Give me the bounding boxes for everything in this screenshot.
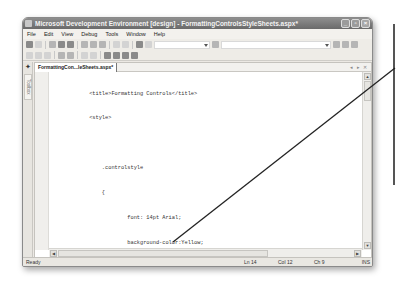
- menu-edit[interactable]: Edit: [44, 29, 53, 39]
- code-line: background-color:Yellow;: [51, 239, 361, 247]
- maximize-button[interactable]: ▫: [351, 19, 360, 28]
- toolbar-separator: [77, 51, 78, 59]
- start-debug-icon[interactable]: [136, 41, 143, 48]
- next-bookmark-icon[interactable]: [113, 52, 120, 59]
- scroll-left-arrow-icon[interactable]: ◀: [50, 250, 57, 257]
- redo-icon[interactable]: [122, 41, 129, 48]
- find-icon[interactable]: [212, 41, 219, 48]
- toolbar-separator: [77, 41, 78, 49]
- paste-icon[interactable]: [99, 41, 106, 48]
- status-char: Ch 9: [314, 258, 325, 267]
- indent-icon[interactable]: [67, 52, 74, 59]
- toolbox-strip: ✦ Toolbox: [23, 62, 33, 258]
- ide-window: Microsoft Development Environment [desig…: [22, 17, 373, 267]
- cut-icon[interactable]: [81, 41, 88, 48]
- close-button[interactable]: ×: [361, 19, 370, 28]
- format-icon[interactable]: [44, 52, 51, 59]
- toolbar-separator: [100, 51, 101, 59]
- new-project-icon[interactable]: [26, 41, 33, 48]
- menu-window[interactable]: Window: [126, 29, 146, 39]
- solution-config-dropdown[interactable]: [154, 41, 210, 49]
- open-file-icon[interactable]: [49, 41, 56, 48]
- copy-icon[interactable]: [90, 41, 97, 48]
- document-tab-controls[interactable]: ◂ ▸ ✕: [350, 63, 368, 72]
- save-all-icon[interactable]: [67, 41, 74, 48]
- status-line: Ln 14: [244, 258, 257, 267]
- toolbox-tab[interactable]: Toolbox: [24, 74, 32, 100]
- callout-bracket: [393, 24, 395, 185]
- uncomment-icon[interactable]: [90, 52, 97, 59]
- pin-icon[interactable]: ✦: [24, 63, 32, 71]
- status-bar: Ready Ln 14 Col 12 Ch 9 INS: [23, 257, 372, 266]
- comment-icon[interactable]: [81, 52, 88, 59]
- vertical-scroll-thumb[interactable]: [364, 81, 371, 101]
- horizontal-scrollbar[interactable]: ◀ ▶: [49, 248, 362, 257]
- code-line: {: [51, 189, 361, 197]
- code-line: font: 14pt Arial;: [51, 214, 361, 222]
- menu-help[interactable]: Help: [154, 29, 165, 39]
- format-icon[interactable]: [35, 52, 42, 59]
- status-column: Col 12: [278, 258, 292, 267]
- window-title: Microsoft Development Environment [desig…: [35, 20, 298, 27]
- solution-explorer-icon[interactable]: [333, 41, 340, 48]
- menu-bar: File Edit View Debug Tools Window Help: [23, 29, 372, 39]
- menu-file[interactable]: File: [27, 29, 36, 39]
- formatting-toolbar: [23, 50, 372, 61]
- standard-toolbar: [23, 39, 372, 50]
- code-line: .controlstyle: [51, 164, 361, 172]
- toolbar-separator: [45, 41, 46, 49]
- prev-bookmark-icon[interactable]: [122, 52, 129, 59]
- menu-view[interactable]: View: [61, 29, 73, 39]
- undo-icon[interactable]: [113, 41, 120, 48]
- scroll-down-arrow-icon[interactable]: ▼: [364, 242, 371, 249]
- status-insert-mode: INS: [362, 258, 370, 267]
- menu-tools[interactable]: Tools: [105, 29, 118, 39]
- status-text: Ready: [26, 258, 40, 267]
- outdent-icon[interactable]: [58, 52, 65, 59]
- toolbar-separator: [132, 41, 133, 49]
- minimize-button[interactable]: _: [341, 19, 350, 28]
- save-icon[interactable]: [58, 41, 65, 48]
- bookmark-icon[interactable]: [104, 52, 111, 59]
- toolbox-icon[interactable]: [351, 41, 358, 48]
- add-item-icon[interactable]: [35, 41, 42, 48]
- vertical-scrollbar[interactable]: ▲ ▼: [362, 72, 371, 250]
- editor-document: FormattingCon...leSheets.aspx* ◂ ▸ ✕ <ti…: [34, 62, 372, 258]
- code-line: <style>: [51, 114, 361, 122]
- document-tabs: FormattingCon...leSheets.aspx* ◂ ▸ ✕: [35, 63, 371, 72]
- menu-debug[interactable]: Debug: [81, 29, 97, 39]
- format-icon[interactable]: [26, 52, 33, 59]
- properties-icon[interactable]: [342, 41, 349, 48]
- scroll-right-arrow-icon[interactable]: ▶: [354, 250, 361, 257]
- document-tab[interactable]: FormattingCon...leSheets.aspx*: [35, 63, 117, 72]
- title-bar[interactable]: Microsoft Development Environment [desig…: [23, 18, 372, 29]
- scroll-up-arrow-icon[interactable]: ▲: [364, 73, 371, 80]
- code-line: <title>Formatting Controls</title>: [51, 90, 361, 98]
- editor-gutter: [35, 72, 49, 250]
- app-icon: [25, 20, 32, 27]
- toolbar-separator: [109, 41, 110, 49]
- code-line: [51, 139, 361, 147]
- horizontal-scroll-thumb[interactable]: [58, 250, 268, 257]
- step-icon[interactable]: [145, 41, 152, 48]
- find-dropdown[interactable]: [221, 41, 331, 49]
- toolbar-separator: [54, 51, 55, 59]
- code-editor[interactable]: <title>Formatting Controls</title> <styl…: [51, 73, 361, 249]
- window-controls: _ ▫ ×: [341, 19, 370, 28]
- clear-bookmarks-icon[interactable]: [131, 52, 138, 59]
